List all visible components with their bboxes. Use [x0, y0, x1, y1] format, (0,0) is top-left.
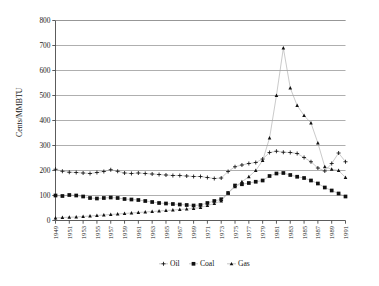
xtick-label: 1961 [135, 226, 142, 239]
datapoint-coal [54, 194, 58, 198]
series-gas [54, 46, 348, 219]
datapoint-oil [254, 161, 258, 165]
datapoint-gas [240, 180, 244, 183]
datapoint-coal [288, 173, 292, 177]
datapoint-coal [88, 196, 92, 200]
xtick-label: 1959 [121, 225, 128, 239]
xtick-label: 1967 [176, 225, 183, 239]
datapoint-oil [60, 169, 64, 173]
datapoint-coal [130, 198, 134, 202]
datapoint-coal [302, 176, 306, 180]
datapoint-oil [116, 169, 120, 173]
xtick-label: 1963 [149, 225, 156, 239]
datapoint-coal [81, 195, 85, 199]
datapoint-coal [295, 175, 299, 179]
ytick-label: 600 [39, 66, 50, 75]
ytick-label: 400 [39, 116, 50, 125]
xtick-label: 1973 [218, 225, 225, 239]
xtick-label: 1951 [66, 226, 73, 239]
datapoint-oil [274, 149, 278, 153]
datapoint-oil [302, 156, 306, 160]
xtick-label: 1957 [107, 225, 114, 239]
datapoint-coal [337, 192, 341, 196]
datapoint-coal [137, 198, 141, 202]
xtick-label: 1955 [94, 225, 101, 239]
datapoint-coal [95, 197, 99, 201]
xtick-label: 1949 [52, 225, 59, 239]
datapoint-coal [261, 179, 265, 183]
datapoint-oil [240, 163, 244, 167]
datapoint-oil [164, 173, 168, 177]
datapoint-oil [102, 170, 106, 174]
ytick-label: 700 [39, 41, 50, 50]
xtick-label: 1981 [273, 226, 280, 239]
datapoint-oil [199, 175, 203, 179]
datapoint-oil [129, 172, 133, 176]
datapoint-oil [157, 173, 161, 177]
xtick-label: 1953 [80, 225, 87, 239]
datapoint-coal [268, 174, 272, 178]
datapoint-oil [233, 165, 237, 169]
xtick-label: 1971 [204, 226, 211, 239]
legend-label-coal: Coal [200, 259, 214, 268]
legend-label-gas: Gas [238, 259, 250, 268]
datapoint-oil [185, 174, 189, 178]
datapoint-oil [95, 171, 99, 175]
xtick-label: 1989 [328, 225, 335, 239]
datapoint-oil [247, 162, 251, 166]
ytick-label: 0 [47, 216, 51, 225]
series-oil [54, 149, 348, 180]
series-line-oil [56, 151, 346, 178]
datapoint-coal [309, 179, 313, 183]
datapoint-coal [185, 203, 189, 207]
datapoint-oil [192, 175, 196, 179]
ytick-label: 800 [39, 16, 50, 25]
line-chart: 0100200300400500600700800Cents/MMBTU1949… [0, 0, 379, 286]
ytick-label: 100 [39, 191, 50, 200]
xtick-label: 1977 [245, 225, 252, 239]
datapoint-oil [88, 172, 92, 176]
datapoint-oil [81, 171, 85, 175]
datapoint-gas [282, 46, 286, 49]
y-axis-title: Cents/MMBTU [15, 87, 24, 137]
datapoint-coal [344, 195, 348, 199]
datapoint-oil [281, 150, 285, 154]
xtick-label: 1979 [259, 225, 266, 239]
xtick-label: 1969 [190, 225, 197, 239]
datapoint-oil [171, 174, 175, 178]
datapoint-gas [268, 136, 272, 139]
ytick-label: 500 [39, 91, 50, 100]
datapoint-gas [316, 141, 320, 144]
datapoint-coal [157, 201, 161, 205]
datapoint-coal [254, 180, 258, 184]
xtick-label: 1987 [314, 225, 321, 239]
legend-marker-coal [192, 262, 196, 266]
datapoint-gas [288, 86, 292, 89]
datapoint-coal [143, 199, 147, 203]
datapoint-coal [316, 182, 320, 186]
chart-legend: OilCoalGas [159, 259, 250, 268]
datapoint-coal [171, 202, 175, 206]
datapoint-oil [288, 151, 292, 155]
xtick-label: 1983 [287, 225, 294, 239]
datapoint-coal [74, 194, 78, 198]
datapoint-coal [247, 181, 251, 185]
datapoint-oil [212, 177, 216, 181]
datapoint-coal [67, 193, 71, 197]
xtick-label: 1985 [301, 225, 308, 239]
chart-container: 0100200300400500600700800Cents/MMBTU1949… [0, 0, 379, 286]
datapoint-coal [102, 196, 106, 200]
datapoint-oil [67, 170, 71, 174]
datapoint-oil [150, 172, 154, 176]
datapoint-coal [178, 203, 182, 207]
xtick-label: 1965 [163, 225, 170, 239]
datapoint-coal [330, 189, 334, 193]
legend-label-oil: Oil [170, 259, 180, 268]
datapoint-coal [323, 186, 327, 190]
datapoint-oil [143, 172, 147, 176]
datapoint-coal [123, 197, 127, 201]
datapoint-coal [150, 200, 154, 204]
xtick-label: 1991 [342, 226, 349, 239]
datapoint-coal [282, 171, 286, 175]
datapoint-coal [275, 172, 279, 176]
